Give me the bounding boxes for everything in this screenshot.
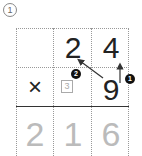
step-2-badge: 2 — [71, 69, 81, 79]
arrow-diagonal-icon — [80, 61, 103, 78]
step-arrows — [0, 0, 142, 156]
step-1-badge: 1 — [125, 74, 135, 84]
